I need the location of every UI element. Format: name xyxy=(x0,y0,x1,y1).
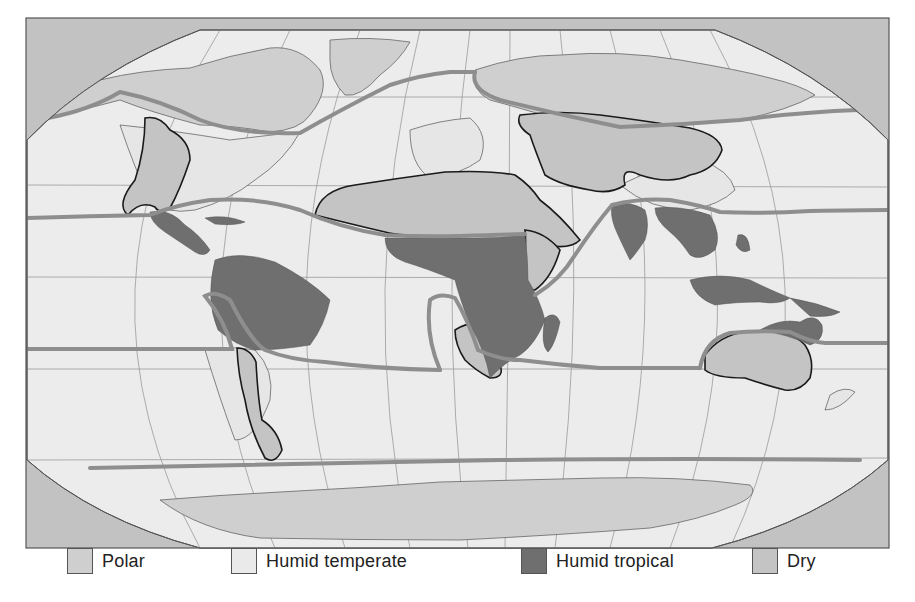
legend-swatch-dry xyxy=(752,548,778,574)
legend-label-polar: Polar xyxy=(102,551,145,572)
legend-label-humid-temperate: Humid temperate xyxy=(266,551,407,572)
legend-swatch-humid-tropical xyxy=(521,548,547,574)
legend-swatch-polar xyxy=(67,548,93,574)
legend-swatch-humid-temperate xyxy=(231,548,257,574)
legend-item-dry: Dry xyxy=(752,548,816,574)
legend-item-humid-tropical: Humid tropical xyxy=(521,548,674,574)
legend-label-humid-tropical: Humid tropical xyxy=(556,551,674,572)
legend-label-dry: Dry xyxy=(787,551,816,572)
legend: Polar Humid temperate Humid tropical Dry xyxy=(0,548,915,588)
legend-item-polar: Polar xyxy=(67,548,145,574)
legend-item-humid-temperate: Humid temperate xyxy=(231,548,407,574)
world-climate-map xyxy=(0,0,915,602)
